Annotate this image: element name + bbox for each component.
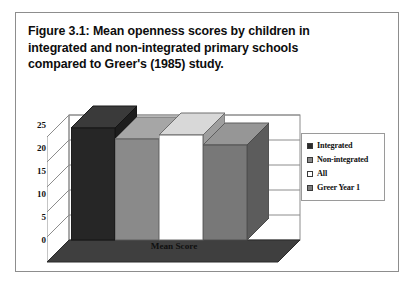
bar-chart: 25 20 15 10 5 0	[16, 91, 400, 266]
legend-label-non-integrated: Non-integrated	[317, 155, 368, 164]
y-tick-0: 0	[20, 236, 46, 245]
y-axis: 25 20 15 10 5 0	[16, 91, 46, 266]
figure-frame: Figure 3.1: Mean openness scores by chil…	[15, 12, 399, 272]
legend-item-integrated: Integrated	[307, 139, 379, 152]
legend-swatch-integrated	[307, 143, 313, 149]
legend-label-integrated: Integrated	[317, 141, 352, 150]
legend-label-all: All	[317, 169, 327, 178]
legend-swatch-all	[307, 171, 313, 177]
x-axis-label: Mean Score	[47, 241, 301, 251]
legend-item-all: All	[307, 167, 379, 180]
legend-label-greer-year-1: Greer Year 1	[317, 183, 360, 192]
chart-legend: Integrated Non-integrated All Greer Year…	[301, 133, 385, 201]
legend-item-non-integrated: Non-integrated	[307, 153, 379, 166]
plot-area	[47, 91, 301, 266]
y-tick-5: 5	[20, 213, 46, 222]
figure-caption: Figure 3.1: Mean openness scores by chil…	[28, 23, 328, 73]
y-tick-25: 25	[20, 121, 46, 130]
y-tick-15: 15	[20, 167, 46, 176]
y-tick-20: 20	[20, 144, 46, 153]
y-tick-10: 10	[20, 190, 46, 199]
legend-item-greer-year-1: Greer Year 1	[307, 181, 379, 194]
legend-swatch-non-integrated	[307, 157, 313, 163]
legend-swatch-greer-year-1	[307, 185, 313, 191]
